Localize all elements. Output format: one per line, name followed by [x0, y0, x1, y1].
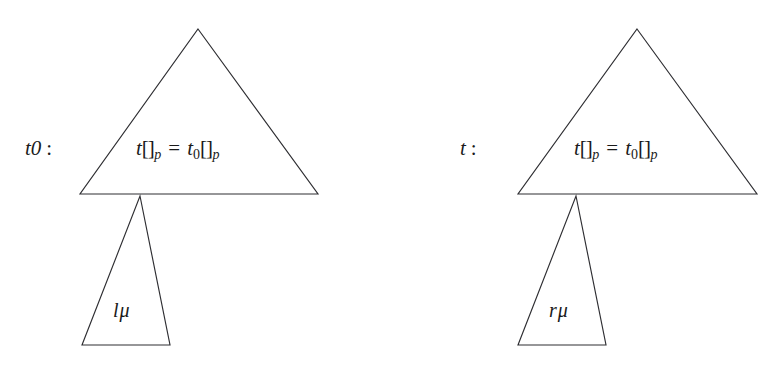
term-rewriting-diagram: t0: t[]p=t0[]p lμ t: t[]p=t0[]p rμ [0, 0, 773, 368]
left-formula-relation: = [168, 136, 180, 160]
right-small-label-term: r [549, 299, 557, 321]
left-big-triangle [80, 29, 318, 194]
right-side-label-colon: : [471, 136, 477, 160]
right-small-triangle [518, 196, 606, 345]
left-formula-left-subscript: p [154, 147, 161, 162]
right-formula-right-subscript: p [651, 147, 658, 162]
left-formula-right-subscript: p [213, 147, 220, 162]
left-small-triangle-label: lμ [113, 300, 130, 320]
left-side-label-subscript: 0 [31, 136, 42, 160]
left-big-triangle-formula: t[]p=t0[]p [136, 138, 220, 162]
left-small-label-term: l [113, 299, 119, 321]
right-formula-right-brackets: [] [638, 136, 650, 160]
right-small-label-symbol: μ [558, 299, 568, 321]
right-big-triangle-formula: t[]p=t0[]p [574, 138, 658, 162]
left-formula-right-brackets: [] [200, 136, 212, 160]
right-small-triangle-label: rμ [549, 300, 568, 320]
right-formula-relation: = [606, 136, 618, 160]
right-big-triangle [518, 29, 757, 194]
left-small-triangle [82, 196, 170, 345]
left-panel-side-label: t0: [25, 138, 52, 159]
left-formula-right-term-subscript: 0 [193, 147, 200, 162]
right-side-label-term: t [460, 136, 466, 160]
right-panel-side-label: t: [460, 138, 477, 159]
left-formula-left-brackets: [] [142, 136, 154, 160]
left-small-label-symbol: μ [120, 299, 130, 321]
right-formula-left-brackets: [] [580, 136, 592, 160]
right-formula-left-subscript: p [592, 147, 599, 162]
right-formula-right-term-subscript: 0 [631, 147, 638, 162]
left-side-label-colon: : [46, 136, 52, 160]
